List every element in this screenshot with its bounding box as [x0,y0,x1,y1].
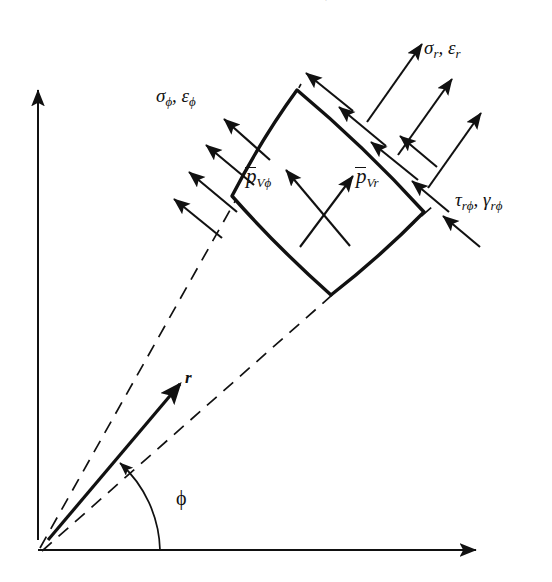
sigma-phi-symbol: σ [156,85,165,106]
sigma-r-symbol: σ [424,37,433,58]
label-tau-rphi: τrϕ, γrϕ [455,190,502,212]
tau-rphi-subscript: rϕ [462,198,474,213]
gamma-rphi-symbol: γ [483,189,491,210]
label-r-vector: r [185,369,192,386]
p-bar-phi-symbol: p [246,166,257,187]
sigma-r-separator: , [438,37,448,58]
gamma-rphi-subscript: rϕ [491,198,503,213]
label-p-v-r: pVr [356,166,379,189]
sigma-phi-separator: , [172,85,182,106]
epsilon-r-subscript: r [455,46,460,61]
epsilon-phi-subscript: ϕ [189,94,196,109]
label-sigma-r: σr, εr [424,38,461,60]
p-v-phi-subscript: Vϕ [257,175,272,190]
p-v-r-subscript: Vr [367,175,379,190]
tau-rphi-symbol: τ [455,189,462,210]
label-sigma-phi: σϕ, εϕ [156,86,196,108]
label-p-v-phi: pVϕ [246,166,271,189]
sigma-r-arrow-group [367,44,481,188]
r-vector [48,384,180,540]
figure-canvas: ′ σϕ, εϕ σr, εr τrϕ, γrϕ pVϕ pVr r ϕ [0,0,552,582]
page-scan-fragment: ′ [324,0,327,11]
label-phi-angle: ϕ [176,488,187,508]
epsilon-phi-symbol: ε [182,85,190,106]
tau-rphi-separator: , [474,189,484,210]
curvilinear-sector-element [232,90,424,295]
p-bar-r-symbol: p [356,166,367,187]
diagram-svg [0,0,552,582]
